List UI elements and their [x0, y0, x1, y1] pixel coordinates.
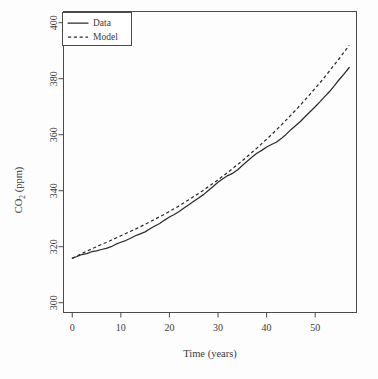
y-tick-label: 360	[48, 127, 59, 142]
x-tick-label: 20	[164, 322, 174, 333]
x-tick-label: 40	[262, 322, 272, 333]
co2-line-chart: 300320340360380400 01020304050 CO2 (ppm)…	[0, 0, 378, 379]
y-axis-title: CO2 (ppm)	[13, 166, 27, 213]
x-tick-label: 50	[310, 322, 320, 333]
y-axis-title-unit: (ppm)	[13, 166, 25, 195]
x-axis-title: Time (years)	[183, 348, 237, 360]
y-tick-label: 320	[48, 239, 59, 254]
y-tick-label: 300	[48, 295, 59, 310]
x-tick-label: 10	[116, 322, 126, 333]
data-series-line	[72, 68, 349, 259]
svg-text:CO2 (ppm): CO2 (ppm)	[13, 166, 27, 213]
legend-label-model: Model	[93, 32, 118, 42]
x-tick-label: 0	[70, 322, 75, 333]
x-tick-label: 30	[213, 322, 223, 333]
legend: Data Model	[63, 13, 132, 46]
plot-frame	[64, 12, 357, 313]
chart-root: 300320340360380400 01020304050 CO2 (ppm)…	[0, 0, 378, 379]
model-series-line	[72, 45, 349, 258]
y-axis-ticks: 300320340360380400	[48, 15, 64, 310]
y-tick-label: 380	[48, 71, 59, 86]
x-axis-ticks: 01020304050	[70, 313, 320, 333]
y-tick-label: 400	[48, 15, 59, 30]
y-tick-label: 340	[48, 183, 59, 198]
y-axis-title-main: CO	[13, 198, 24, 213]
legend-label-data: Data	[93, 18, 112, 28]
